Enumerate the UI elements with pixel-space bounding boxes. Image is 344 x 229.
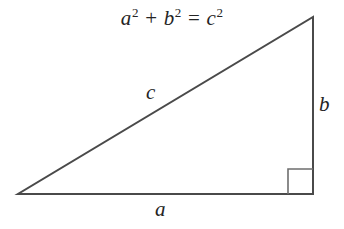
equation-plus-operator: +: [144, 6, 158, 30]
right-angle-marker-icon: [288, 169, 313, 194]
equation-term-c: c: [207, 6, 217, 30]
equation-exponent-c: 2: [216, 5, 223, 20]
equation-exponent-a: 2: [131, 5, 138, 20]
pythagorean-equation: a2 + b2 = c2: [0, 8, 344, 29]
pythagorean-theorem-figure: a2 + b2 = c2 c b a: [0, 0, 344, 229]
hypotenuse-label: c: [146, 82, 155, 103]
vertical-leg-label: b: [319, 94, 330, 115]
equation-term-a: a: [121, 6, 132, 30]
horizontal-leg-label: a: [155, 199, 166, 220]
equation-equals-operator: =: [187, 6, 201, 30]
triangle-diagram: [0, 0, 344, 229]
right-triangle-outline: [18, 17, 313, 194]
equation-exponent-b: 2: [174, 5, 181, 20]
equation-term-b: b: [164, 6, 175, 30]
